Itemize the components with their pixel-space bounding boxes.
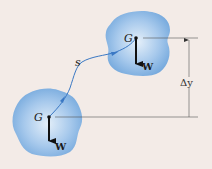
label-g-bottom: G — [34, 111, 43, 124]
label-w-top: W — [141, 61, 154, 72]
work-of-weight-diagram: G W G W s Δy — [0, 0, 212, 169]
label-g-top: G — [124, 32, 133, 45]
label-w-bottom: W — [54, 141, 67, 152]
label-path-s: s — [75, 56, 81, 69]
rigid-body-final-position — [106, 11, 170, 76]
diagram-svg: G W G W s Δy — [0, 0, 212, 169]
rigid-body-initial-position — [13, 88, 83, 156]
label-delta-y: Δy — [180, 77, 193, 88]
